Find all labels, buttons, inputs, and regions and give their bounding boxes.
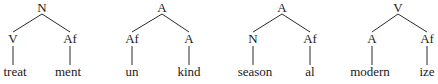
left-branch-line xyxy=(13,14,42,32)
root-node-label: A xyxy=(277,0,287,15)
tree-canvas: NVtreatAfmentAAfunAkindANseasonAfalVAmod… xyxy=(0,0,438,84)
right-node-label: A xyxy=(184,31,194,46)
left-node-label: V xyxy=(8,31,18,46)
right-branch-line xyxy=(282,14,310,32)
morphology-tree-diagram: NVtreatAfmentAAfunAkindANseasonAfalVAmod… xyxy=(0,0,438,84)
tree-2: AAfunAkind xyxy=(125,0,201,79)
left-leaf-morpheme: treat xyxy=(3,64,26,79)
left-node-label: Af xyxy=(125,31,139,46)
right-leaf-morpheme: al xyxy=(305,64,315,79)
right-node-label: Af xyxy=(63,31,77,46)
tree-3: ANseasonAfal xyxy=(238,0,318,79)
left-node-label: A xyxy=(367,31,377,46)
right-branch-line xyxy=(398,14,427,32)
left-node-label: N xyxy=(248,31,258,46)
right-node-label: Af xyxy=(303,31,317,46)
left-branch-line xyxy=(253,14,282,32)
root-node-label: A xyxy=(157,0,167,15)
left-branch-line xyxy=(132,14,162,32)
tree-4: VAmodernAfize xyxy=(350,0,435,79)
right-leaf-morpheme: ize xyxy=(419,64,434,79)
right-branch-line xyxy=(162,14,189,32)
left-leaf-morpheme: season xyxy=(238,64,273,79)
root-node-label: V xyxy=(393,0,403,15)
right-leaf-morpheme: ment xyxy=(55,64,81,79)
tree-1: NVtreatAfment xyxy=(3,0,81,79)
right-leaf-morpheme: kind xyxy=(177,64,201,79)
left-leaf-morpheme: un xyxy=(126,64,140,79)
left-branch-line xyxy=(372,14,398,32)
right-node-label: Af xyxy=(420,31,434,46)
root-node-label: N xyxy=(37,0,47,15)
left-leaf-morpheme: modern xyxy=(350,64,390,79)
right-branch-line xyxy=(42,14,70,32)
